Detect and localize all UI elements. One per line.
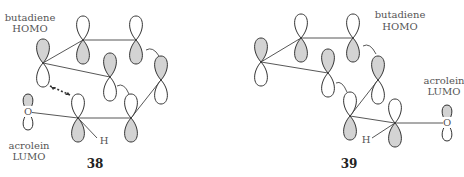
orbital-c1 — [255, 38, 268, 86]
bond — [28, 112, 78, 118]
lumo-label-line2: LUMO — [428, 86, 461, 97]
structure-number: 38 — [87, 157, 104, 171]
structure-number: 39 — [341, 157, 358, 171]
orbital-c4 — [322, 49, 335, 97]
homo-label-line2: HOMO — [382, 21, 417, 32]
orbital-c4 — [104, 53, 117, 101]
diagram-39: O butadiene HOMO acrolein LUMO H 39 — [255, 9, 464, 171]
oxygen-label: O — [24, 106, 32, 117]
bond — [261, 62, 328, 73]
homo-label-line2: HOMO — [12, 23, 47, 34]
lumo-label-line2: LUMO — [13, 151, 46, 162]
bond — [350, 116, 395, 123]
interaction-arrow — [146, 49, 159, 56]
lumo-label-line1: acrolein — [423, 75, 464, 86]
homo-label-line1: butadiene — [375, 9, 426, 20]
interaction-arrow — [336, 82, 347, 92]
lumo-label-line1: acrolein — [8, 140, 50, 151]
homo-label-line1: butadiene — [5, 12, 56, 23]
interaction-arrow — [363, 45, 376, 54]
bond — [43, 63, 110, 77]
hydrogen-label: H — [362, 134, 371, 145]
hydrogen-label: H — [100, 135, 109, 146]
orbital-c6 — [344, 92, 357, 140]
interaction-arrow — [117, 85, 129, 94]
oxygen-label: O — [443, 117, 451, 128]
orbital-c5 — [155, 56, 168, 104]
orbital-c5 — [372, 56, 385, 104]
orbital-c1 — [37, 39, 50, 87]
diagram-38: O butadiene HOMO acrolein LUMO H 38 — [5, 12, 168, 171]
